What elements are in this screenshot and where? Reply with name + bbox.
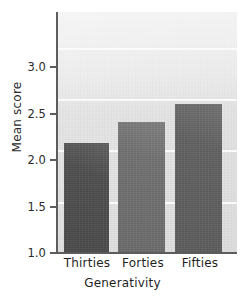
gridline-2.5 xyxy=(58,99,237,101)
y-axis-line xyxy=(56,12,58,253)
bar-thirties[interactable] xyxy=(64,143,109,253)
bar-forties[interactable] xyxy=(118,122,165,253)
bar-thirties-fill xyxy=(64,143,109,253)
y-tick-label-1.5: 1.5 xyxy=(6,200,46,214)
y-tick-mark-2.0 xyxy=(50,159,57,161)
y-tick-mark-2.5 xyxy=(50,113,57,115)
x-tick-label-fifties: Fifties xyxy=(155,256,245,270)
gridline-3.0 xyxy=(58,48,237,50)
y-axis-title: Mean score xyxy=(10,67,24,167)
y-tick-mark-1.5 xyxy=(50,206,57,208)
bar-fifties-fill xyxy=(175,104,222,253)
x-axis-title: Generativity xyxy=(0,276,245,290)
bar-forties-fill xyxy=(118,122,165,253)
bar-fifties[interactable] xyxy=(175,104,222,253)
x-axis-line xyxy=(56,252,237,254)
y-tick-mark-3.0 xyxy=(50,66,57,68)
y-tick-mark-1.0 xyxy=(50,252,57,254)
bar-chart-figure: 3.0 2.5 2.0 1.5 1.0 Mean score Thirties … xyxy=(0,0,245,300)
y-tick-label-1.0: 1.0 xyxy=(6,246,46,260)
plot-area xyxy=(58,12,237,253)
